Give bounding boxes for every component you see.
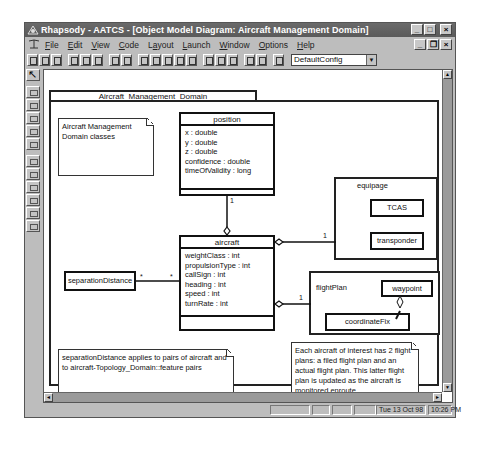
status-time: 10:26 PM bbox=[428, 405, 452, 415]
attribute: weightClass : int bbox=[185, 251, 269, 261]
note-tool[interactable] bbox=[26, 125, 40, 137]
zoom-out-icon[interactable] bbox=[150, 54, 161, 66]
attribute: callSign : int bbox=[185, 270, 269, 280]
attribute: z : double bbox=[185, 147, 269, 157]
object-tool[interactable] bbox=[26, 112, 40, 124]
drawing-palette bbox=[26, 69, 42, 269]
attribute: speed : int bbox=[185, 289, 269, 299]
multiplicity-label: * bbox=[140, 273, 143, 280]
inheritance-tool[interactable] bbox=[26, 207, 40, 219]
menu-launch[interactable]: Launch bbox=[183, 40, 211, 50]
attribute: timeOfValidity : long bbox=[185, 166, 269, 176]
menu-code[interactable]: Code bbox=[119, 40, 139, 50]
anchor-tool[interactable] bbox=[26, 220, 40, 232]
aggregation-tool[interactable] bbox=[26, 181, 40, 193]
minimize-button[interactable]: _ bbox=[411, 24, 423, 35]
mdi-minimize-button[interactable]: _ bbox=[414, 39, 426, 50]
zoom-fit-icon[interactable] bbox=[162, 54, 173, 66]
association-tool[interactable] bbox=[26, 155, 40, 167]
rhapsody-app-icon bbox=[27, 24, 39, 36]
save-icon[interactable] bbox=[51, 54, 62, 66]
undo-zoom-icon[interactable] bbox=[186, 54, 197, 66]
part-waypoint[interactable]: waypoint bbox=[381, 280, 433, 297]
status-pane bbox=[270, 405, 310, 415]
rhapsody-window: Rhapsody - AATCS - [Object Model Diagram… bbox=[24, 22, 456, 418]
attribute: y : double bbox=[185, 138, 269, 148]
scroll-right-button[interactable]: ► bbox=[433, 393, 442, 402]
dependency-tool[interactable] bbox=[26, 194, 40, 206]
window-title: Rhapsody - AATCS - [Object Model Diagram… bbox=[41, 25, 369, 35]
package-tool[interactable] bbox=[26, 86, 40, 98]
class-separation-distance[interactable]: separationDistance bbox=[64, 271, 136, 291]
note-text: Aircraft Management Domain classes bbox=[62, 122, 132, 141]
zoom-in-icon[interactable] bbox=[138, 54, 149, 66]
scroll-left-button[interactable]: ◄ bbox=[44, 393, 53, 402]
status-pane bbox=[312, 405, 330, 415]
print-icon[interactable] bbox=[109, 54, 120, 66]
note-domain-classes[interactable]: Aircraft Management Domain classes bbox=[58, 118, 154, 176]
composite-tool[interactable] bbox=[26, 138, 40, 150]
class-tool[interactable] bbox=[26, 99, 40, 111]
menu-layout[interactable]: Layout bbox=[148, 40, 174, 50]
title-bar[interactable]: Rhapsody - AATCS - [Object Model Diagram… bbox=[25, 23, 455, 37]
delete-icon[interactable] bbox=[244, 54, 255, 66]
menu-help[interactable]: Help bbox=[297, 40, 314, 50]
part-transponder[interactable]: transponder bbox=[370, 232, 424, 250]
composite-name: flightPlan bbox=[316, 283, 347, 292]
copy-icon[interactable] bbox=[80, 54, 91, 66]
status-pane bbox=[354, 405, 376, 415]
browser-icon[interactable] bbox=[203, 54, 214, 66]
multiplicity-label: 1 bbox=[230, 197, 234, 204]
select-arrow-tool[interactable] bbox=[26, 69, 40, 81]
attribute-list: weightClass : int propulsionType : int c… bbox=[181, 249, 273, 310]
diagram-icon[interactable] bbox=[215, 54, 226, 66]
menu-file[interactable]: File bbox=[45, 40, 59, 50]
menu-options[interactable]: Options bbox=[259, 40, 288, 50]
close-button[interactable]: × bbox=[440, 24, 452, 35]
configuration-value: DefaultConfig bbox=[294, 55, 342, 64]
class-name: aircraft bbox=[181, 237, 273, 249]
part-coordinate-fix[interactable]: coordinateFix bbox=[325, 313, 410, 331]
composite-equipage[interactable]: equipage TCAS transponder bbox=[334, 177, 438, 260]
paste-icon[interactable] bbox=[92, 54, 103, 66]
chevron-down-icon[interactable]: ▼ bbox=[366, 55, 376, 65]
attribute-list: x : double y : double z : double confide… bbox=[181, 126, 273, 178]
new-icon[interactable] bbox=[27, 54, 38, 66]
composite-flightplan[interactable]: flightPlan waypoint coordinateFix bbox=[309, 271, 440, 335]
multiplicity-label: 1 bbox=[323, 232, 327, 239]
open-icon[interactable] bbox=[39, 54, 50, 66]
scroll-down-button[interactable]: ▼ bbox=[443, 383, 452, 392]
part-tcas[interactable]: TCAS bbox=[370, 199, 424, 217]
make-icon[interactable] bbox=[273, 54, 284, 66]
generate-icon[interactable] bbox=[256, 54, 267, 66]
document-system-menu-icon[interactable] bbox=[27, 39, 41, 50]
diagram-canvas[interactable]: Aircraft_Management_Domain Aircraft Mana… bbox=[43, 69, 453, 403]
menu-bar: File Edit View Code Layout Launch Window… bbox=[25, 38, 455, 51]
multiplicity-label: * bbox=[170, 273, 173, 280]
doc-icon[interactable] bbox=[227, 54, 238, 66]
horizontal-scrollbar[interactable]: ◄ ► bbox=[44, 392, 442, 402]
class-aircraft[interactable]: aircraft weightClass : int propulsionTyp… bbox=[179, 235, 275, 331]
main-toolbar: DefaultConfig ▼ bbox=[25, 52, 455, 67]
help-icon[interactable] bbox=[121, 54, 132, 66]
attribute: heading : int bbox=[185, 280, 269, 290]
menu-edit[interactable]: Edit bbox=[68, 40, 83, 50]
composite-name: equipage bbox=[357, 181, 388, 190]
maximize-button[interactable]: □ bbox=[424, 24, 436, 35]
multiplicity-label: 1 bbox=[299, 294, 303, 301]
cut-icon[interactable] bbox=[68, 54, 79, 66]
vertical-scrollbar[interactable]: ▲ ▼ bbox=[442, 70, 452, 392]
menu-view[interactable]: View bbox=[91, 40, 109, 50]
mdi-restore-button[interactable]: ❐ bbox=[427, 39, 439, 50]
note-text: separationDistance applies to pairs of a… bbox=[62, 353, 227, 372]
class-position[interactable]: position x : double y : double z : doubl… bbox=[179, 112, 275, 196]
zoom-region-icon[interactable] bbox=[174, 54, 185, 66]
directed-association-tool[interactable] bbox=[26, 168, 40, 180]
operations-compartment bbox=[181, 188, 273, 194]
mdi-close-button[interactable]: × bbox=[440, 39, 452, 50]
menu-window[interactable]: Window bbox=[219, 40, 249, 50]
class-name: separationDistance bbox=[66, 273, 134, 289]
note-text: Each aircraft of interest has 2 flight p… bbox=[295, 346, 410, 395]
scroll-up-button[interactable]: ▲ bbox=[443, 70, 452, 79]
configuration-select[interactable]: DefaultConfig ▼ bbox=[291, 54, 377, 66]
